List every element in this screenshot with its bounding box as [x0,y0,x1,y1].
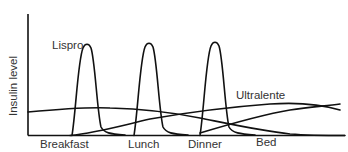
chart-canvas: Insulin level Lispro Ultralente Breakfas… [0,0,348,152]
x-tick-labels: Breakfast Lunch Dinner Bed [40,136,276,150]
insulin-profile-diagram: Insulin level Lispro Ultralente Breakfas… [0,0,348,152]
lispro-label: Lispro [52,39,83,51]
x-label-bed: Bed [256,136,276,148]
x-label-lunch: Lunch [128,138,159,150]
lispro-series [72,42,255,135]
y-axis-label: Insulin level [7,56,19,116]
ultralente-label: Ultralente [236,89,285,101]
x-label-breakfast: Breakfast [40,138,89,150]
axes [28,14,345,136]
x-label-dinner: Dinner [188,138,222,150]
lispro-peak-breakfast [72,44,125,135]
